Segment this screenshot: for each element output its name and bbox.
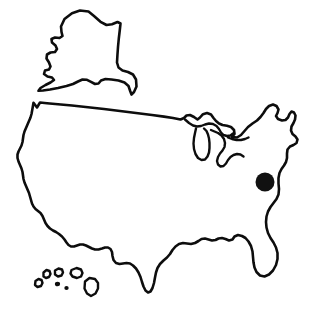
hawaii-island-2 xyxy=(55,269,63,277)
hawaii-island-big xyxy=(85,278,99,296)
hawaii-island-5 xyxy=(64,286,68,290)
map-canvas xyxy=(0,0,310,320)
hawaii-island-6 xyxy=(71,268,83,278)
hawaii-island-4 xyxy=(35,279,43,287)
hawaii-island-1 xyxy=(44,270,51,278)
us-outline-map: United States outline map xyxy=(0,0,310,320)
location-marker-group[interactable] xyxy=(256,173,275,192)
hawaii-island-3 xyxy=(55,282,60,287)
location-marker[interactable] xyxy=(256,173,275,192)
